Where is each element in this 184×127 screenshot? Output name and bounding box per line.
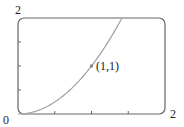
- y-max-label: 2: [15, 3, 21, 17]
- x-max-label: 2: [170, 107, 176, 121]
- point-label: (1,1): [96, 59, 119, 73]
- point-marker: [90, 64, 94, 68]
- origin-label: 0: [3, 113, 9, 127]
- chart: (1,1) 0 2 2: [0, 0, 184, 127]
